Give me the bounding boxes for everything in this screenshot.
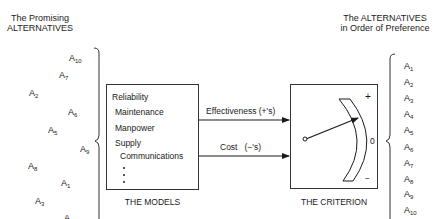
diagram-lines <box>0 0 442 219</box>
gauge-scale-icon <box>339 99 367 181</box>
left-brace-icon <box>94 48 99 219</box>
gauge-needle-icon <box>303 118 358 141</box>
right-brace-icon <box>386 54 395 219</box>
